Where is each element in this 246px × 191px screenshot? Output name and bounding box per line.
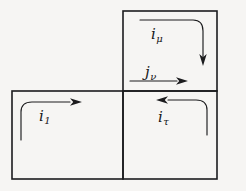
i-tau-arrow-path — [168, 100, 207, 135]
i-mu-arrow-path — [140, 20, 203, 57]
label-i-1-subscript: 1 — [44, 115, 50, 126]
j-nu-arrowhead — [176, 77, 188, 84]
label-j-nu-base: j — [145, 63, 150, 81]
i-1-arrowhead — [70, 98, 82, 105]
bottom-left-plaquette — [12, 91, 123, 179]
figure-canvas: iμ jν i1 iτ — [0, 0, 246, 191]
label-i-tau-subscript: τ — [163, 116, 169, 127]
label-j-nu: jν — [145, 64, 156, 82]
arrowheads — [70, 54, 207, 106]
label-i-tau: iτ — [158, 109, 169, 127]
figure-vector-layer — [0, 0, 246, 191]
plaquette-outlines — [12, 11, 217, 179]
i-tau-arrowhead — [156, 96, 168, 103]
bottom-right-plaquette — [123, 91, 217, 179]
label-i-1: i1 — [39, 108, 51, 126]
label-j-nu-subscript: ν — [150, 71, 156, 82]
label-i-mu-subscript: μ — [156, 33, 163, 44]
label-i-mu: iμ — [151, 26, 163, 44]
